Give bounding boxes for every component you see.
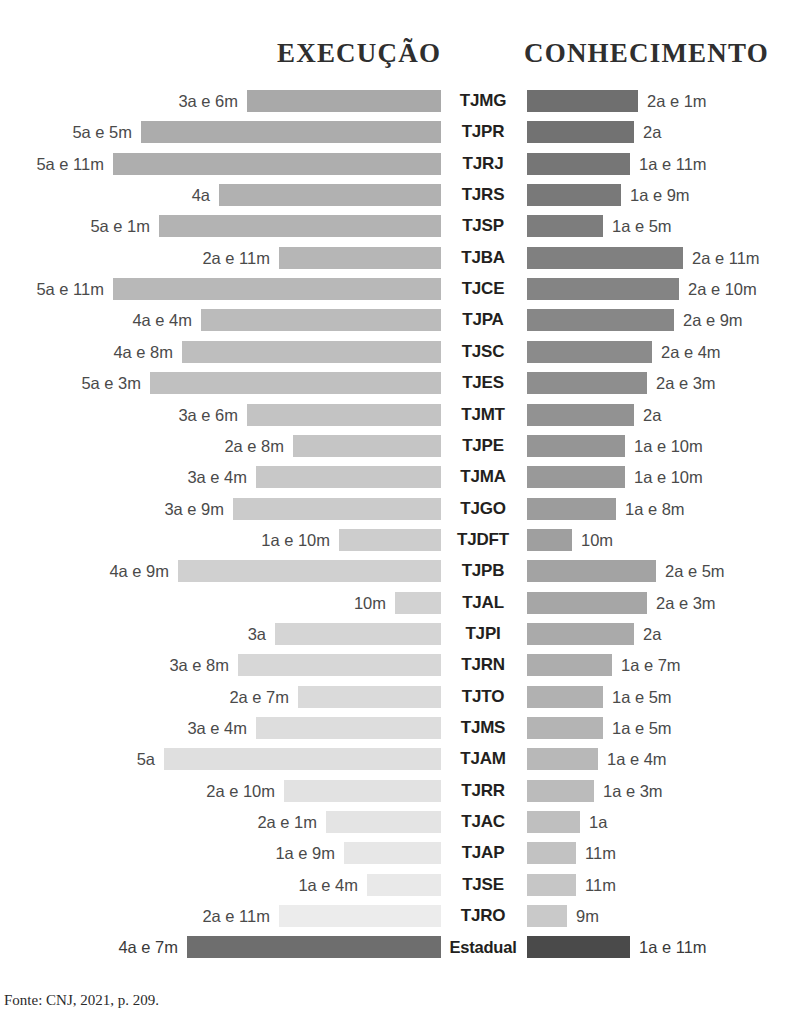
- execucao-cell: 5a e 11m: [0, 276, 441, 302]
- conhecimento-value-label: 2a e 11m: [692, 248, 760, 268]
- category-label: TJSP: [441, 215, 525, 237]
- execucao-cell: 3a: [0, 621, 441, 647]
- chart-row: 5a e 3mTJES2a e 3m: [0, 370, 792, 396]
- conhecimento-cell: 1a e 4m: [527, 746, 792, 772]
- conhecimento-value-label: 2a e 5m: [665, 561, 725, 581]
- chart-row: 1a e 9mTJAP11m: [0, 840, 792, 866]
- execucao-value-label: 3a e 6m: [178, 405, 238, 425]
- conhecimento-bar: [527, 936, 630, 958]
- conhecimento-value-label: 1a e 11m: [639, 937, 707, 957]
- execucao-bar: [275, 623, 441, 645]
- conhecimento-bar: [527, 842, 576, 864]
- conhecimento-value-label: 1a e 3m: [603, 781, 663, 801]
- conhecimento-bar: [527, 184, 621, 206]
- conhecimento-cell: 11m: [527, 840, 792, 866]
- conhecimento-value-label: 2a: [643, 624, 661, 644]
- execucao-cell: 2a e 11m: [0, 245, 441, 271]
- execucao-bar: [113, 278, 441, 300]
- execucao-cell: 4a e 8m: [0, 339, 441, 365]
- execucao-cell: 3a e 4m: [0, 464, 441, 490]
- conhecimento-bar: [527, 404, 634, 426]
- execucao-value-label: 1a e 9m: [275, 843, 335, 863]
- conhecimento-bar: [527, 278, 679, 300]
- execucao-cell: 5a e 1m: [0, 213, 441, 239]
- execucao-value-label: 5a e 5m: [72, 122, 132, 142]
- conhecimento-bar: [527, 309, 674, 331]
- execucao-bar: [284, 780, 441, 802]
- execucao-value-label: 10m: [354, 593, 386, 613]
- conhecimento-value-label: 11m: [585, 875, 616, 895]
- chart-row: 4a e 9mTJPB2a e 5m: [0, 558, 792, 584]
- execucao-bar: [238, 654, 441, 676]
- conhecimento-value-label: 1a e 4m: [607, 749, 667, 769]
- category-label: TJES: [441, 372, 525, 394]
- conhecimento-value-label: 2a e 1m: [647, 91, 707, 111]
- chart-row: 5a e 11mTJRJ1a e 11m: [0, 151, 792, 177]
- chart-row: 5aTJAM1a e 4m: [0, 746, 792, 772]
- execucao-value-label: 4a e 7m: [118, 937, 178, 957]
- category-label: TJPR: [441, 121, 525, 143]
- conhecimento-bar: [527, 654, 612, 676]
- execucao-cell: 3a e 9m: [0, 496, 441, 522]
- conhecimento-cell: 1a e 11m: [527, 151, 792, 177]
- execucao-cell: 2a e 1m: [0, 809, 441, 835]
- conhecimento-bar: [527, 121, 634, 143]
- category-label: TJPE: [441, 435, 525, 457]
- chart-row: 1a e 4mTJSE11m: [0, 872, 792, 898]
- conhecimento-value-label: 1a e 10m: [634, 436, 703, 456]
- conhecimento-bar: [527, 529, 572, 551]
- conhecimento-cell: 2a: [527, 621, 792, 647]
- execucao-value-label: 1a e 4m: [298, 875, 358, 895]
- conhecimento-cell: 1a e 5m: [527, 715, 792, 741]
- category-label: TJRR: [441, 780, 525, 802]
- category-label: TJAC: [441, 811, 525, 833]
- conhecimento-value-label: 1a e 11m: [639, 154, 707, 174]
- chart-row: 3a e 8mTJRN1a e 7m: [0, 652, 792, 678]
- conhecimento-bar: [527, 623, 634, 645]
- category-label: TJMT: [441, 404, 525, 426]
- conhecimento-cell: 2a e 1m: [527, 88, 792, 114]
- conhecimento-cell: 2a e 9m: [527, 307, 792, 333]
- execucao-value-label: 2a e 1m: [257, 812, 317, 832]
- chart-row: 4a e 7mEstadual1a e 11m: [0, 934, 792, 960]
- execucao-cell: 5a e 3m: [0, 370, 441, 396]
- execucao-cell: 2a e 8m: [0, 433, 441, 459]
- execucao-cell: 10m: [0, 590, 441, 616]
- conhecimento-bar: [527, 686, 603, 708]
- category-label: TJMS: [441, 717, 525, 739]
- category-label: Estadual: [441, 936, 525, 958]
- category-label: TJSE: [441, 874, 525, 896]
- execucao-bar: [247, 90, 441, 112]
- execucao-cell: 4a e 7m: [0, 934, 441, 960]
- execucao-value-label: 3a e 4m: [187, 718, 247, 738]
- execucao-value-label: 5a e 11m: [36, 279, 104, 299]
- category-label: TJTO: [441, 686, 525, 708]
- conhecimento-bar: [527, 560, 656, 582]
- execucao-cell: 1a e 4m: [0, 872, 441, 898]
- conhecimento-value-label: 1a: [589, 812, 607, 832]
- conhecimento-cell: 1a e 10m: [527, 433, 792, 459]
- execucao-bar: [279, 905, 441, 927]
- execucao-cell: 2a e 7m: [0, 684, 441, 710]
- execucao-value-label: 2a e 8m: [224, 436, 284, 456]
- execucao-bar: [219, 184, 441, 206]
- execucao-value-label: 4a: [192, 185, 210, 205]
- chart-row: 2a e 7mTJTO1a e 5m: [0, 684, 792, 710]
- conhecimento-cell: 1a: [527, 809, 792, 835]
- conhecimento-value-label: 2a e 3m: [656, 593, 716, 613]
- conhecimento-bar: [527, 780, 594, 802]
- execucao-value-label: 2a e 11m: [202, 248, 270, 268]
- conhecimento-bar: [527, 215, 603, 237]
- chart-row: 3aTJPI2a: [0, 621, 792, 647]
- conhecimento-cell: 10m: [527, 527, 792, 553]
- chart-row: 5a e 1mTJSP1a e 5m: [0, 213, 792, 239]
- conhecimento-bar: [527, 717, 603, 739]
- category-label: TJAM: [441, 748, 525, 770]
- execucao-bar: [141, 121, 441, 143]
- category-label: TJRN: [441, 654, 525, 676]
- category-label: TJCE: [441, 278, 525, 300]
- conhecimento-value-label: 2a: [643, 122, 661, 142]
- execucao-value-label: 5a e 1m: [90, 216, 150, 236]
- conhecimento-bar: [527, 592, 647, 614]
- category-label: TJPI: [441, 623, 525, 645]
